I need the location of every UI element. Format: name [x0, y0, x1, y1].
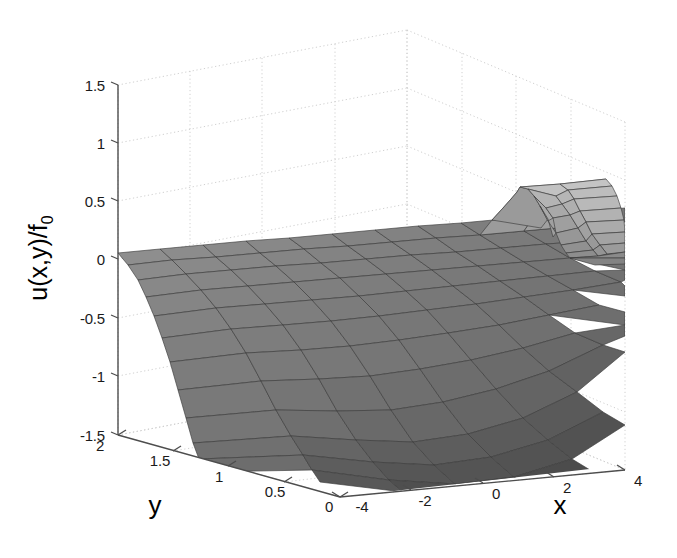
y-tick-label: 0 — [325, 498, 333, 515]
z-tick-label: 1.5 — [85, 77, 105, 94]
y-tick-label: 2 — [96, 437, 104, 454]
x-tick-label: -4 — [356, 498, 369, 515]
z-axis-title-subscript: 0 — [39, 215, 56, 224]
z-axis-title: u(x,y)/f0 — [24, 215, 57, 300]
z-tick-label: 0.5 — [85, 193, 105, 210]
z-tick-label: -0.5 — [80, 310, 105, 327]
z-tick-label: 0 — [97, 251, 105, 268]
y-axis-title: y — [149, 490, 162, 521]
y-tick-label: 0.5 — [265, 483, 285, 500]
y-tick-label: 1.5 — [150, 452, 170, 469]
y-tick-label: 1 — [215, 468, 223, 485]
z-tick-label: -1 — [92, 368, 105, 385]
figure-canvas: 1.5 1 0.5 0 -0.5 -1 -1.5 2 1.5 1 0.5 0 -… — [0, 0, 677, 558]
x-tick-label: -2 — [419, 492, 432, 509]
x-tick-label: 4 — [634, 472, 642, 489]
x-axis-title: x — [554, 490, 567, 521]
surface-mesh — [118, 179, 625, 495]
z-tick-label: 1 — [97, 135, 105, 152]
x-tick-label: 0 — [492, 485, 500, 502]
z-axis-title-text: u(x,y)/f — [24, 224, 52, 300]
